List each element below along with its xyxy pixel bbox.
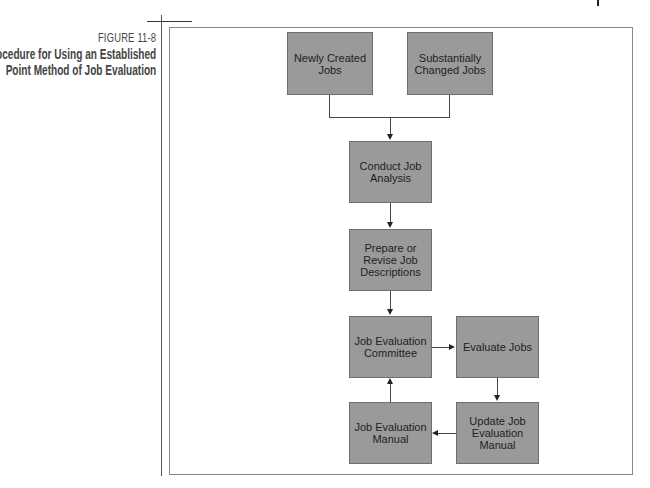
arrow-down-icon xyxy=(387,222,393,228)
node-substantially-changed-jobs: Substantially Changed Jobs xyxy=(407,32,493,95)
figure-number: FIGURE 11-8 xyxy=(0,30,156,46)
connector-evaluate-to-update xyxy=(497,378,498,396)
connector-changed-down xyxy=(449,95,450,117)
node-update-job-evaluation-manual: Update Job Evaluation Manual xyxy=(456,402,539,464)
figure-title-line-2: Point Method of Job Evaluation xyxy=(0,62,156,78)
arrow-down-icon xyxy=(387,309,393,315)
figure-title-line-1: Procedure for Using an Established xyxy=(0,46,156,62)
connector-merge-down xyxy=(390,117,391,135)
figure-caption: FIGURE 11-8 Procedure for Using an Estab… xyxy=(0,30,156,78)
arrow-down-icon xyxy=(387,134,393,140)
node-evaluate-jobs: Evaluate Jobs xyxy=(456,316,539,378)
page-corner-mark xyxy=(597,0,599,6)
node-conduct-job-analysis: Conduct Job Analysis xyxy=(349,141,432,203)
margin-rule-horizontal xyxy=(147,21,192,22)
arrow-left-icon xyxy=(432,430,438,436)
arrow-down-icon xyxy=(494,395,500,401)
margin-rule-vertical xyxy=(161,15,162,476)
connector-update-to-manual xyxy=(438,433,456,434)
arrow-up-icon xyxy=(387,378,393,384)
connector-analysis-to-descriptions xyxy=(390,203,391,223)
connector-committee-to-evaluate xyxy=(432,347,450,348)
node-newly-created-jobs: Newly Created Jobs xyxy=(287,32,373,95)
connector-manual-to-committee xyxy=(390,384,391,402)
arrow-right-icon xyxy=(449,344,455,350)
connector-newly-down xyxy=(329,95,330,117)
node-job-evaluation-committee: Job Evaluation Committee xyxy=(349,316,432,378)
connector-descriptions-to-committee xyxy=(390,291,391,310)
node-job-evaluation-manual: Job Evaluation Manual xyxy=(349,402,432,464)
node-prepare-revise-job-descriptions: Prepare or Revise Job Descriptions xyxy=(349,229,432,291)
